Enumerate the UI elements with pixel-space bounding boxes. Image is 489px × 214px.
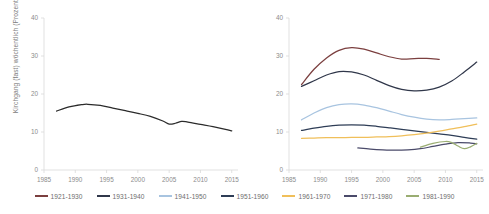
svg-text:1985: 1985	[37, 176, 52, 183]
svg-text:2010: 2010	[193, 176, 208, 183]
legend-item-label: 1951-1960	[237, 193, 269, 200]
series-line-1931-1940	[302, 62, 477, 91]
svg-text:10: 10	[31, 128, 39, 135]
svg-text:2005: 2005	[162, 176, 177, 183]
svg-text:20: 20	[276, 90, 284, 97]
svg-text:2005: 2005	[407, 176, 422, 183]
legend-item-label: 1931-1940	[113, 193, 145, 200]
legend-item-1961-1970[interactable]: 1961-1970	[282, 190, 330, 202]
legend-swatch-icon	[221, 195, 234, 197]
svg-text:20: 20	[31, 90, 39, 97]
legend-item-1951-1960[interactable]: 1951-1960	[221, 190, 269, 202]
legend-item-1921-1930[interactable]: 1921-1930	[35, 190, 83, 202]
legend-item-label: 1971-1980	[360, 193, 392, 200]
legend-swatch-icon	[97, 195, 110, 197]
svg-text:1990: 1990	[313, 176, 328, 183]
svg-text:40: 40	[31, 14, 39, 21]
svg-text:1995: 1995	[344, 176, 359, 183]
svg-text:10: 10	[276, 128, 284, 135]
legend-swatch-icon	[282, 195, 295, 197]
legend-item-1971-1980[interactable]: 1971-1980	[344, 190, 392, 202]
svg-text:1995: 1995	[99, 176, 114, 183]
svg-text:1985: 1985	[282, 176, 297, 183]
legend-item-label: 1941-1950	[175, 193, 207, 200]
series-line-1941-1950	[302, 104, 477, 120]
svg-text:1990: 1990	[68, 176, 83, 183]
svg-text:0: 0	[279, 166, 283, 173]
svg-text:2000: 2000	[131, 176, 146, 183]
church-attendance-chart-figure: Kirchgang (fast) wöchentlich (Prozent) 0…	[0, 0, 489, 214]
plot-area-left: 0102030401985199019952000200520102015	[0, 0, 244, 186]
legend-item-label: 1921-1930	[51, 193, 83, 200]
svg-text:40: 40	[276, 14, 284, 21]
legend-item-label: 1961-1970	[298, 193, 330, 200]
legend-item-1941-1950[interactable]: 1941-1950	[159, 190, 207, 202]
svg-text:0: 0	[34, 166, 38, 173]
legend-swatch-icon	[406, 195, 419, 197]
svg-text:30: 30	[31, 52, 39, 59]
svg-text:2015: 2015	[470, 176, 485, 183]
svg-text:30: 30	[276, 52, 284, 59]
plot-area-right: 0102030401985199019952000200520102015	[245, 0, 489, 186]
series-line-1921-1930	[302, 48, 440, 85]
svg-text:2010: 2010	[438, 176, 453, 183]
chart-panel-left: Kirchgang (fast) wöchentlich (Prozent) 0…	[0, 0, 244, 186]
series-line-gesamt	[57, 104, 232, 131]
svg-text:2015: 2015	[225, 176, 240, 183]
legend-swatch-icon	[35, 195, 48, 197]
chart-panel-right: 0102030401985199019952000200520102015	[245, 0, 489, 186]
legend-item-1981-1990[interactable]: 1981-1990	[406, 190, 454, 202]
svg-text:2000: 2000	[376, 176, 391, 183]
legend-item-1931-1940[interactable]: 1931-1940	[97, 190, 145, 202]
legend-swatch-icon	[159, 195, 172, 197]
chart-legend: 1921-19301931-19401941-19501951-19601961…	[0, 190, 489, 214]
legend-item-label: 1981-1990	[422, 193, 454, 200]
legend-swatch-icon	[344, 195, 357, 197]
